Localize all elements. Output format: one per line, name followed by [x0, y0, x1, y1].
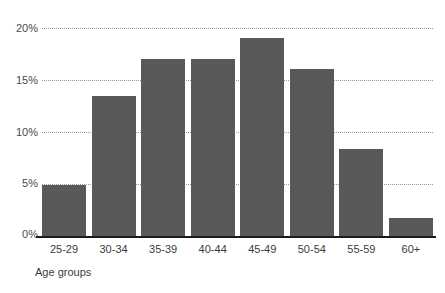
x-tick-label-60-plus: 60+ — [389, 243, 433, 256]
bar-30-34[interactable] — [92, 96, 136, 236]
bar-chart: 20% 15% 10% 5% 0% — [0, 0, 445, 293]
bar-55-59[interactable] — [339, 149, 383, 236]
bar-slot-45-49 — [240, 28, 284, 236]
x-tick-label-30-34: 30-34 — [92, 243, 136, 256]
bar-45-49[interactable] — [240, 38, 284, 236]
bar-series — [42, 28, 433, 236]
y-tick-label-5: 5% — [8, 178, 38, 189]
bar-slot-40-44 — [191, 28, 235, 236]
x-tick-label-50-54: 50-54 — [290, 243, 334, 256]
bar-slot-50-54 — [290, 28, 334, 236]
x-tick-label-25-29: 25-29 — [42, 243, 86, 256]
x-tick-label-55-59: 55-59 — [339, 243, 383, 256]
bar-25-29[interactable] — [42, 185, 86, 236]
x-tick-label-35-39: 35-39 — [141, 243, 185, 256]
x-tick-label-45-49: 45-49 — [240, 243, 284, 256]
x-axis-line — [36, 236, 436, 238]
bar-slot-25-29 — [42, 28, 86, 236]
bar-slot-55-59 — [339, 28, 383, 236]
bar-slot-35-39 — [141, 28, 185, 236]
y-tick-label-10: 10% — [8, 127, 38, 138]
x-tick-label-40-44: 40-44 — [191, 243, 235, 256]
x-axis-tick-labels: 25-29 30-34 35-39 40-44 45-49 50-54 55-5… — [42, 243, 433, 256]
bar-35-39[interactable] — [141, 59, 185, 236]
bar-slot-60-plus — [389, 28, 433, 236]
y-tick-label-0: 0% — [8, 229, 38, 240]
y-tick-label-20: 20% — [8, 23, 38, 34]
bar-60-plus[interactable] — [389, 218, 433, 236]
bar-slot-30-34 — [92, 28, 136, 236]
bar-40-44[interactable] — [191, 59, 235, 236]
plot-area — [42, 28, 433, 236]
bar-50-54[interactable] — [290, 69, 334, 236]
y-tick-label-15: 15% — [8, 75, 38, 86]
x-axis-title: Age groups — [35, 266, 91, 279]
